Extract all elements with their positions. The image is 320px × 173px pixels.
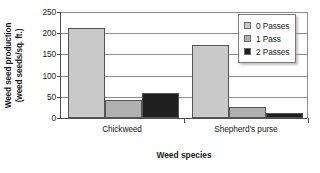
legend-item-1: 1 Pass [244, 32, 289, 45]
legend-label-1: 1 Pass [256, 34, 281, 44]
bar-shepherd-s-purse-0-passes [192, 45, 229, 118]
bar-chickweed-0-passes [68, 28, 105, 118]
legend-label-0: 0 Passes [256, 21, 289, 31]
category-label-1: Shepherd’s purse [184, 124, 308, 134]
y-axis-title-line1: Weed seed production [5, 22, 16, 108]
x-axis-end-tick [308, 118, 309, 123]
chart-legend: 0 Passes1 Pass2 Passes [238, 14, 296, 63]
bar-chickweed-2-passes [142, 93, 179, 118]
y-axis-title: Weed seed production (weed seeds/sq. ft.… [0, 0, 30, 130]
y-tick-label-200: 200 [28, 28, 56, 38]
legend-label-2: 2 Passes [256, 47, 289, 57]
y-tick-label-0: 0 [28, 113, 56, 123]
y-tick-label-150: 150 [28, 49, 56, 59]
legend-swatch-icon-2 [244, 48, 251, 55]
y-tick-label-250: 250 [28, 7, 56, 17]
legend-swatch-icon-1 [244, 35, 251, 42]
category-label-0: Chickweed [60, 124, 184, 134]
legend-swatch-icon-0 [244, 22, 251, 29]
group-separator-tick [184, 118, 185, 123]
y-tick-label-50: 50 [28, 92, 56, 102]
y-tick-label-100: 100 [28, 71, 56, 81]
bar-chickweed-1-pass [105, 100, 142, 118]
legend-item-2: 2 Passes [244, 45, 289, 58]
x-axis-title: Weed species [60, 150, 308, 160]
bar-shepherd-s-purse-2-passes [266, 113, 303, 118]
y-axis-title-line2: (weed seeds/sq. ft.) [15, 22, 26, 108]
bar-shepherd-s-purse-1-pass [229, 107, 266, 118]
bar-chart-figure: Weed seed production (weed seeds/sq. ft.… [0, 0, 320, 173]
y-axis-tick-labels: 050100150200250 [28, 12, 56, 118]
y-tick-0 [57, 118, 62, 119]
legend-item-0: 0 Passes [244, 19, 289, 32]
